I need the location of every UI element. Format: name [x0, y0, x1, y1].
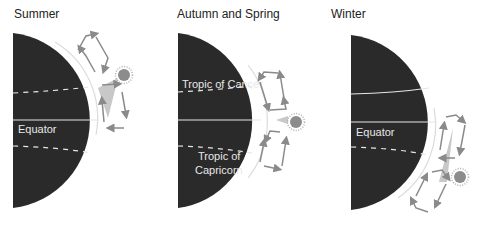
earth-diagram-winter: Equator	[320, 0, 477, 228]
earth-diagram-summer: Equator	[0, 0, 160, 228]
tropic-capricorn-label: Capricorn	[195, 164, 243, 176]
equator-label: Equator	[18, 123, 57, 135]
sun-icon	[288, 114, 305, 131]
sun-ray	[276, 116, 288, 124]
panel-autumn-spring: Autumn and Spring Tropic of Cancer Tropi…	[160, 0, 320, 228]
panel-winter: Winter Equator	[320, 0, 477, 228]
sun-icon	[116, 67, 133, 84]
sun-icon	[452, 169, 469, 186]
panel-summer: Summer Equator	[0, 0, 160, 228]
tropic-capricorn-label: Tropic of	[198, 150, 241, 162]
equator-label: Equator	[356, 126, 395, 138]
earth-diagram-equinox: Tropic of Cancer Tropic of Capricorn	[160, 0, 320, 228]
sun-ray	[439, 128, 453, 182]
tropic-cancer-label: Tropic of Cancer	[182, 78, 263, 90]
